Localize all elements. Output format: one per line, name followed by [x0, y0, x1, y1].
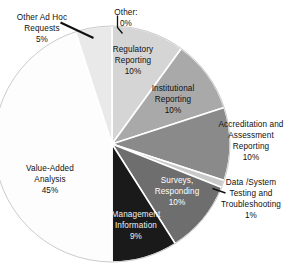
slice-label-institutional-line-1: Institutional: [140, 83, 206, 94]
slice-label-regulatory-line-2: Reporting: [101, 55, 165, 66]
slice-label-management-information: Management Information 9%: [101, 209, 171, 242]
slice-label-data-system-testing-troubleshooting: Data /System Testing and Troubleshooting…: [211, 177, 291, 221]
slice-label-accreditation-line-2: Assessment: [211, 130, 291, 141]
slice-label-management-line-2: Information: [101, 220, 171, 231]
slice-label-value-added-line-1: Value-Added: [14, 163, 86, 174]
slice-label-value-added-value: 45%: [14, 185, 86, 196]
slice-label-institutional-line-2: Reporting: [140, 94, 206, 105]
slice-label-accreditation-line-1: Accreditation and: [211, 119, 291, 130]
slice-label-value-added-analysis: Value-Added Analysis 45%: [14, 163, 86, 196]
slice-label-management-line-1: Management: [101, 209, 171, 220]
slice-label-value-added-line-2: Analysis: [14, 174, 86, 185]
slice-label-other-ad-hoc-line-1: Other Ad Hoc: [4, 12, 80, 23]
slice-label-institutional-reporting: Institutional Reporting 10%: [140, 83, 206, 116]
slice-label-data-system-value: 1%: [211, 210, 291, 221]
slice-label-other-ad-hoc-value: 5%: [4, 34, 80, 45]
slice-label-regulatory-value: 10%: [101, 66, 165, 77]
slice-label-institutional-value: 10%: [140, 105, 206, 116]
slice-label-regulatory-reporting: Regulatory Reporting 10%: [101, 44, 165, 77]
slice-label-surveys-value: 10%: [143, 197, 211, 208]
slice-label-accreditation-line-3: Reporting: [211, 141, 291, 152]
slice-label-other-line-1: Other:: [100, 7, 152, 18]
slice-label-surveys-line-2: Responding: [143, 186, 211, 197]
slice-label-accreditation-assessment-reporting: Accreditation and Assessment Reporting 1…: [211, 119, 291, 163]
slice-label-management-value: 9%: [101, 231, 171, 242]
slice-label-accreditation-value: 10%: [211, 152, 291, 163]
slice-label-data-system-line-3: Troubleshooting: [211, 199, 291, 210]
slice-label-regulatory-line-1: Regulatory: [101, 44, 165, 55]
slice-label-surveys-responding: Surveys, Responding 10%: [143, 175, 211, 208]
slice-label-surveys-line-1: Surveys,: [143, 175, 211, 186]
slice-label-other-ad-hoc-line-2: Requests: [4, 23, 80, 34]
slice-label-other-ad-hoc-requests: Other Ad Hoc Requests 5%: [4, 12, 80, 45]
slice-label-data-system-line-1: Data /System: [211, 177, 291, 188]
slice-label-data-system-line-2: Testing and: [211, 188, 291, 199]
slice-label-other-value: 0%: [100, 18, 152, 29]
pie-chart: Other: 0% Other Ad Hoc Requests 5% Regul…: [0, 0, 291, 270]
slice-label-other: Other: 0%: [100, 7, 152, 29]
